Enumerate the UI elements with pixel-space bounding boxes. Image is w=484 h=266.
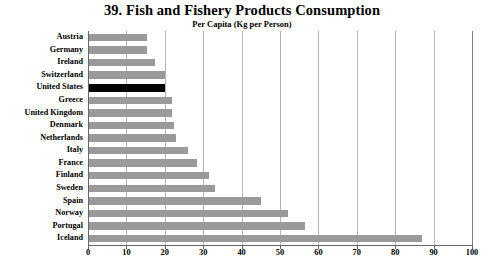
bar-ireland [88, 59, 155, 66]
bar-finland [88, 172, 209, 179]
bar-row [88, 132, 472, 145]
y-axis-label-netherlands: Netherlands [0, 132, 83, 145]
bar-italy [88, 147, 188, 154]
x-tickmark-60 [318, 245, 319, 249]
y-axis-line [88, 31, 89, 246]
bar-series [88, 31, 472, 245]
bar-row [88, 157, 472, 170]
x-tick-50: 50 [276, 248, 284, 257]
x-tick-20: 20 [161, 248, 169, 257]
x-tickmark-10 [126, 245, 127, 249]
bar-united-kingdom [88, 109, 172, 116]
bar-norway [88, 210, 288, 217]
bar-sweden [88, 185, 215, 192]
bar-row [88, 107, 472, 120]
x-tickmark-20 [165, 245, 166, 249]
x-tickmark-70 [357, 245, 358, 249]
chart-title: 39. Fish and Fishery Products Consumptio… [0, 2, 484, 19]
y-axis-label-united-kingdom: United Kingdom [0, 107, 83, 120]
x-tick-70: 70 [353, 248, 361, 257]
bar-switzerland [88, 71, 165, 78]
bar-netherlands [88, 134, 176, 141]
bar-row [88, 144, 472, 157]
x-tickmark-30 [203, 245, 204, 249]
bar-row [88, 220, 472, 233]
bar-france [88, 159, 197, 166]
x-tickmark-0 [88, 245, 89, 249]
bar-denmark [88, 122, 174, 129]
y-axis-label-portugal: Portugal [0, 220, 83, 233]
y-axis-label-finland: Finland [0, 169, 83, 182]
bar-germany [88, 46, 147, 53]
x-tick-10: 10 [122, 248, 130, 257]
x-tickmark-50 [280, 245, 281, 249]
x-tickmark-40 [242, 245, 243, 249]
x-axis-tick-labels: 0102030405060708090100 [0, 248, 484, 264]
chart-container: 39. Fish and Fishery Products Consumptio… [0, 0, 484, 266]
x-tick-80: 80 [391, 248, 399, 257]
chart-subtitle: Per Capita (Kg per Person) [0, 19, 484, 29]
x-tick-0: 0 [86, 248, 90, 257]
x-tick-30: 30 [199, 248, 207, 257]
x-tickmark-100 [472, 245, 473, 249]
y-axis-label-france: France [0, 157, 83, 170]
bar-row [88, 44, 472, 57]
bar-row [88, 56, 472, 69]
y-axis-label-germany: Germany [0, 44, 83, 57]
y-axis-label-denmark: Denmark [0, 119, 83, 132]
bar-portugal [88, 222, 305, 229]
y-axis-label-united-states: United States [0, 81, 83, 94]
x-tick-40: 40 [237, 248, 245, 257]
y-axis-labels: AustriaGermanyIrelandSwitzerlandUnited S… [0, 31, 85, 245]
y-axis-label-norway: Norway [0, 207, 83, 220]
gridline-100 [472, 31, 473, 245]
y-axis-label-italy: Italy [0, 144, 83, 157]
bar-row [88, 94, 472, 107]
bar-row [88, 69, 472, 82]
y-axis-label-ireland: Ireland [0, 56, 83, 69]
bar-greece [88, 97, 172, 104]
x-tickmark-90 [434, 245, 435, 249]
bar-row [88, 232, 472, 245]
y-axis-label-sweden: Sweden [0, 182, 83, 195]
bar-row [88, 195, 472, 208]
bar-row [88, 31, 472, 44]
x-tick-60: 60 [314, 248, 322, 257]
x-tick-90: 90 [429, 248, 437, 257]
bar-austria [88, 34, 147, 41]
bar-row [88, 207, 472, 220]
y-axis-label-greece: Greece [0, 94, 83, 107]
y-axis-label-switzerland: Switzerland [0, 69, 83, 82]
bar-spain [88, 197, 261, 204]
bar-iceland [88, 235, 422, 242]
y-axis-label-austria: Austria [0, 31, 83, 44]
x-tickmark-80 [395, 245, 396, 249]
bar-row [88, 81, 472, 94]
bar-row [88, 182, 472, 195]
y-axis-label-spain: Spain [0, 195, 83, 208]
bar-row [88, 119, 472, 132]
bar-united-states [88, 84, 165, 92]
plot-area [88, 31, 472, 245]
x-tick-100: 100 [466, 248, 479, 257]
bar-row [88, 169, 472, 182]
y-axis-label-iceland: Iceland [0, 232, 83, 245]
